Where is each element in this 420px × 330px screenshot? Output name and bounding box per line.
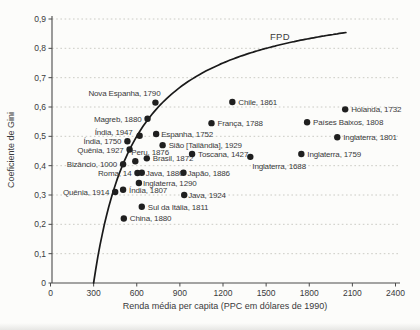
y-tick-label: 0,1 xyxy=(34,249,46,259)
gini-income-scatter-figure: 00,10,20,30,40,50,60,70,80,9030060090012… xyxy=(0,0,420,330)
data-point-label: Java, 1880 xyxy=(146,169,184,178)
data-point-label: Bizâncio, 1000 xyxy=(67,160,118,169)
data-point-label: Sião [Tailândia], 1929 xyxy=(169,141,243,150)
chart-canvas: 00,10,20,30,40,50,60,70,80,9030060090012… xyxy=(0,0,420,330)
data-point xyxy=(229,99,235,105)
y-tick-label: 0,6 xyxy=(34,102,46,112)
data-point xyxy=(180,170,186,176)
y-tick-label: 0,8 xyxy=(34,43,46,53)
data-point-label: Países Baixos, 1808 xyxy=(313,118,384,127)
data-point xyxy=(139,170,145,176)
data-point xyxy=(342,106,348,112)
data-point xyxy=(189,151,195,157)
data-point xyxy=(121,215,127,221)
data-point-label: Roma, 14 xyxy=(98,169,132,178)
y-tick-label: 0,3 xyxy=(34,190,46,200)
data-point-label: Magreb, 1880 xyxy=(94,115,142,124)
data-point xyxy=(132,158,138,164)
data-point-label: França, 1788 xyxy=(218,119,264,128)
data-point-label: Sul da Itália, 1811 xyxy=(148,203,209,212)
data-point-label: China, 1880 xyxy=(130,214,172,223)
data-point xyxy=(136,133,142,139)
data-point xyxy=(334,134,340,140)
data-point xyxy=(208,120,214,126)
x-tick-label: 900 xyxy=(173,288,187,298)
x-tick-label: 1800 xyxy=(300,288,319,298)
data-point-label: Nova Espanha, 1790 xyxy=(88,89,161,98)
y-tick-label: 0,4 xyxy=(34,161,46,171)
y-tick-label: 0 xyxy=(41,278,46,288)
data-points: Nova Espanha, 1790Magreb, 1880Índia, 194… xyxy=(63,89,402,224)
x-tick-label: 2400 xyxy=(386,288,405,298)
x-tick-label: 1200 xyxy=(214,288,233,298)
data-point-label: Chile, 1861 xyxy=(238,98,278,107)
x-tick-label: 1500 xyxy=(257,288,276,298)
data-point xyxy=(139,204,145,210)
data-point xyxy=(124,138,130,144)
data-point-label: Toscana, 1427 xyxy=(198,150,249,159)
data-point-label: Brasil, 1872 xyxy=(153,154,194,163)
x-tick-label: 600 xyxy=(130,288,144,298)
data-point-label: Índia, 1947 xyxy=(95,128,134,137)
data-point-label: Holanda, 1732 xyxy=(351,105,402,114)
data-point xyxy=(304,119,310,125)
x-tick-label: 2100 xyxy=(343,288,362,298)
x-tick-label: 300 xyxy=(87,288,101,298)
y-axis-title: Coeficiente de Gini xyxy=(6,112,16,188)
data-point xyxy=(152,99,158,105)
data-point xyxy=(120,187,126,193)
y-tick-label: 0,9 xyxy=(34,14,46,24)
x-axis-title: Renda média per capita (PPC em dólares d… xyxy=(123,301,328,311)
data-point xyxy=(159,142,165,148)
data-point-label: Japão, 1886 xyxy=(187,169,230,178)
data-point-label: Quênia, 1914 xyxy=(63,188,110,197)
y-tick-label: 0,7 xyxy=(34,73,46,83)
data-point-label: Inglaterra, 1759 xyxy=(307,150,361,159)
data-point xyxy=(112,189,118,195)
data-point xyxy=(153,131,159,137)
data-point-label: Java, 1924 xyxy=(188,191,226,200)
data-point xyxy=(181,192,187,198)
data-point xyxy=(120,161,126,167)
y-tick-label: 0,5 xyxy=(34,131,46,141)
data-point xyxy=(144,155,150,161)
data-point xyxy=(247,154,253,160)
x-tick-label: 0 xyxy=(48,288,53,298)
data-point-label: Quênia, 1927 xyxy=(77,146,124,155)
data-point-label: Índia, 1807 xyxy=(129,186,168,195)
y-tick-label: 0,2 xyxy=(34,219,46,229)
data-point xyxy=(298,151,304,157)
data-point-label: Inglaterra, 1801 xyxy=(343,133,397,142)
fpd-curve-label: FPD xyxy=(270,31,290,42)
data-point-label: Espanha, 1752 xyxy=(161,130,214,139)
data-point-label: Inglaterra, 1688 xyxy=(252,162,306,171)
data-point xyxy=(144,116,150,122)
